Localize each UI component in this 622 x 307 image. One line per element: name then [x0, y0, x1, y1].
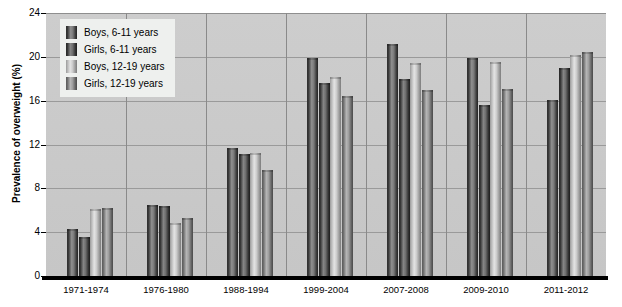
group-separator	[446, 13, 447, 276]
bar-cap	[227, 148, 238, 150]
bar-cap	[170, 223, 181, 225]
legend-item: Boys, 6-11 years	[66, 24, 165, 41]
x-axis-tick-label: 2007-2008	[366, 284, 446, 295]
bar-cap	[467, 58, 478, 60]
bar	[170, 223, 181, 276]
group-separator	[526, 13, 527, 276]
bar	[102, 208, 113, 276]
bar	[467, 58, 478, 276]
bar-cap	[307, 58, 318, 60]
bar-cap	[479, 105, 490, 107]
bar	[250, 153, 261, 276]
bar-group	[366, 13, 446, 276]
bar-cap	[422, 90, 433, 92]
bar-group	[446, 13, 526, 276]
legend-item: Girls, 6-11 years	[66, 41, 165, 58]
bar	[547, 100, 558, 276]
bar-group	[286, 13, 366, 276]
bar	[559, 68, 570, 276]
bar-cap	[582, 52, 593, 54]
group-separator	[286, 13, 287, 276]
bar	[227, 148, 238, 276]
bar-cap	[387, 44, 398, 46]
bar-cap	[342, 96, 353, 98]
bar	[159, 206, 170, 276]
legend-item: Boys, 12-19 years	[66, 58, 165, 75]
bar-cap	[102, 208, 113, 210]
bar	[307, 58, 318, 276]
chart-legend: Boys, 6-11 yearsGirls, 6-11 yearsBoys, 1…	[60, 19, 175, 97]
bar	[330, 77, 341, 276]
bar-cap	[182, 218, 193, 220]
bar-group	[206, 13, 286, 276]
bar-cap	[239, 154, 250, 156]
group-separator	[206, 13, 207, 276]
bar	[570, 55, 581, 276]
bar-cap	[399, 79, 410, 81]
bar	[262, 170, 273, 276]
bar	[182, 218, 193, 276]
bar-cap	[547, 100, 558, 102]
bar-cap	[147, 205, 158, 207]
x-axis-tick-label: 2011-2012	[526, 284, 606, 295]
bar	[422, 90, 433, 276]
bar	[490, 62, 501, 276]
bar	[147, 205, 158, 276]
bar-cap	[330, 77, 341, 79]
y-axis-tick-label: 16	[0, 95, 40, 106]
legend-item: Girls, 12-19 years	[66, 75, 165, 92]
bar-cap	[262, 170, 273, 172]
y-axis-tick-label: 24	[0, 7, 40, 18]
chart-figure: Prevalence of overweight (%) 04812162024…	[0, 0, 622, 307]
y-axis-tick-label: 4	[0, 226, 40, 237]
group-separator	[366, 13, 367, 276]
legend-swatch-icon	[66, 77, 77, 90]
legend-swatch-icon	[66, 43, 77, 56]
bar-cap	[559, 68, 570, 70]
bar-cap	[490, 62, 501, 64]
bar	[410, 63, 421, 276]
bar-cap	[90, 209, 101, 211]
bar-cap	[502, 89, 513, 91]
legend-item-label: Girls, 12-19 years	[84, 78, 163, 89]
bar	[502, 89, 513, 276]
y-axis-tick-label: 8	[0, 182, 40, 193]
legend-swatch-icon	[66, 26, 77, 39]
legend-item-label: Boys, 6-11 years	[84, 27, 158, 38]
legend-item-label: Boys, 12-19 years	[84, 61, 165, 72]
x-axis-tick-label: 1988-1994	[206, 284, 286, 295]
bar	[90, 209, 101, 276]
bar	[319, 83, 330, 276]
y-axis-tick-label: 12	[0, 139, 40, 150]
bar-cap	[79, 237, 90, 239]
x-axis-baseline	[42, 276, 608, 280]
x-axis-tick-label: 1976-1980	[126, 284, 206, 295]
bar-cap	[319, 83, 330, 85]
y-axis-tick-label: 20	[0, 51, 40, 62]
bar-cap	[250, 153, 261, 155]
y-axis-tick-label: 0	[0, 270, 40, 281]
bar	[387, 44, 398, 276]
bar-group	[526, 13, 606, 276]
bar-cap	[159, 206, 170, 208]
x-axis-tick-label: 1999-2004	[286, 284, 366, 295]
legend-item-label: Girls, 6-11 years	[84, 44, 157, 55]
x-axis-tick-label: 1971-1974	[46, 284, 126, 295]
bar	[342, 96, 353, 276]
bar	[239, 154, 250, 276]
bar	[399, 79, 410, 276]
bar	[79, 237, 90, 276]
bar-cap	[67, 229, 78, 231]
bar	[67, 229, 78, 276]
bar-cap	[570, 55, 581, 57]
bar	[479, 105, 490, 276]
legend-swatch-icon	[66, 60, 77, 73]
x-axis-tick-label: 2009-2010	[446, 284, 526, 295]
bar	[582, 52, 593, 276]
bar-cap	[410, 63, 421, 65]
